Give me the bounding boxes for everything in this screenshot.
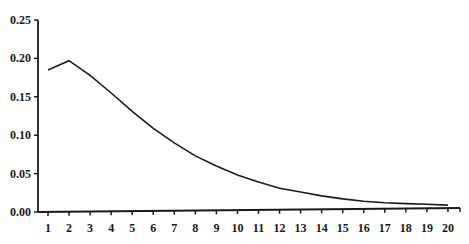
- x-tick-label: 12: [274, 221, 286, 235]
- y-axis-ticks: 0.000.050.100.150.200.25: [10, 13, 38, 219]
- x-tick-label: 17: [379, 221, 391, 235]
- x-tick-label: 11: [253, 221, 264, 235]
- y-tick-label: 0.10: [10, 128, 31, 142]
- x-axis-line: [38, 208, 460, 212]
- x-tick-label: 2: [66, 221, 72, 235]
- y-tick-label: 0.25: [10, 13, 31, 27]
- x-tick-label: 13: [295, 221, 307, 235]
- x-tick-label: 9: [213, 221, 219, 235]
- x-tick-label: 4: [108, 221, 114, 235]
- x-tick-label: 3: [87, 221, 93, 235]
- y-tick-label: 0.15: [10, 90, 31, 104]
- x-tick-label: 8: [192, 221, 198, 235]
- x-tick-label: 18: [400, 221, 412, 235]
- x-tick-label: 15: [337, 221, 349, 235]
- x-tick-label: 14: [316, 221, 328, 235]
- x-tick-label: 10: [231, 221, 243, 235]
- x-tick-label: 1: [45, 221, 51, 235]
- axes: [38, 20, 460, 212]
- y-tick-label: 0.00: [10, 205, 31, 219]
- x-tick-label: 20: [442, 221, 454, 235]
- x-tick-label: 19: [421, 221, 433, 235]
- x-tick-label: 6: [150, 221, 156, 235]
- x-tick-label: 16: [358, 221, 370, 235]
- y-tick-label: 0.05: [10, 167, 31, 181]
- x-tick-label: 7: [171, 221, 177, 235]
- y-tick-label: 0.20: [10, 51, 31, 65]
- x-tick-label: 5: [129, 221, 135, 235]
- line-chart: 0.000.050.100.150.200.25 123456789101112…: [0, 0, 469, 244]
- data-line: [48, 61, 448, 205]
